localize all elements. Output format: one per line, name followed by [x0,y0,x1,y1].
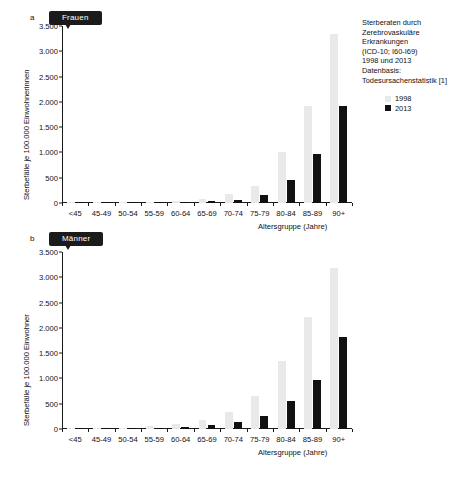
legend-item-1998: 1998 [385,94,411,104]
x-axis-tick-label: 70-74 [224,209,243,218]
x-axis-tick-mark [194,429,195,432]
panel-tag-label: Frauen [62,13,89,22]
panel-tag-maenner: Männer [49,232,103,246]
x-axis-tick-mark [352,429,353,432]
bar-2013-60-64 [181,427,189,429]
note-line-1: Sterberaten durch [362,18,447,28]
bar-2013-<45 [76,428,84,429]
y-axis-tick-mark [59,252,62,253]
y-axis-tick-mark [59,353,62,354]
x-axis-tick-label: <45 [69,435,82,444]
x-axis-tick-mark [62,429,63,432]
x-axis-tick-mark [167,429,168,432]
legend-item-2013: 2013 [385,104,411,114]
x-axis-tick-label: 45-49 [92,209,111,218]
y-axis-tick-label: 3.500 [39,22,58,31]
bar-1998-75-79 [251,186,259,203]
x-axis-tick-label: 80-84 [276,209,295,218]
legend-label-2013: 2013 [395,104,411,114]
panel-letter-a: a [30,13,34,22]
x-axis-tick-label: 55-59 [145,435,164,444]
bar-1998-65-69 [199,420,207,429]
x-axis-tick-mark [247,429,248,432]
plot-area-frauen: 05001.0001.5002.0002.5003.0003.500<4545-… [62,26,352,203]
y-axis-tick-label: 3.000 [39,47,58,56]
figure-note: Sterberaten durch Zerebrovaskuläre Erkra… [362,18,447,85]
bar-1998-55-59 [146,202,154,203]
x-axis-tick-mark [247,203,248,206]
x-axis-tick-label: 50-54 [118,209,137,218]
y-axis-tick-mark [59,76,62,77]
note-line-3: Erkrankungen [362,37,447,47]
y-axis-tick-mark [59,101,62,102]
bar-2013-55-59 [155,428,163,429]
bar-2013-80-84 [287,401,295,429]
x-axis-tick-mark [352,203,353,206]
bar-1998-50-54 [119,428,127,429]
note-line-4: (ICD-10; I60-I69) [362,47,447,57]
x-axis-tick-mark [141,429,142,432]
x-axis-tick-mark [273,429,274,432]
bar-1998-60-64 [172,424,180,429]
x-axis-tick-mark [326,203,327,206]
y-axis-tick-label: 500 [45,399,58,408]
bar-1998-45-49 [93,428,101,429]
bar-1998-<45 [67,202,75,203]
x-axis-tick-label: 55-59 [145,209,164,218]
y-axis-tick-label: 2.000 [39,323,58,332]
x-axis-tick-label: 90+ [332,435,345,444]
bar-2013-90+ [339,106,347,203]
y-axis-title-a: Sterbefälle je 100.000 Einwohnerinnen [22,70,31,200]
legend-swatch-1998-icon [385,96,391,102]
bar-1998-70-74 [225,412,233,429]
x-axis-tick-label: 90+ [332,209,345,218]
panel-tag-label: Männer [62,234,90,243]
y-axis-tick-label: 1.000 [39,148,58,157]
x-axis-tick-label: 45-49 [92,435,111,444]
x-axis-tick-label: 60-64 [171,435,190,444]
note-line-2: Zerebrovaskuläre [362,28,447,38]
y-axis-tick-mark [59,277,62,278]
x-axis-tick-label: 85-89 [303,435,322,444]
y-axis-tick-label: 2.500 [39,72,58,81]
x-axis-tick-label: 65-69 [197,209,216,218]
bar-1998-60-64 [172,201,180,203]
y-axis-tick-label: 2.500 [39,298,58,307]
x-axis-tick-mark [220,203,221,206]
y-axis-line [62,26,63,203]
y-axis-tick-mark [59,152,62,153]
x-axis-tick-label: 75-79 [250,209,269,218]
panel-letter-b: b [30,234,34,243]
bar-2013-65-69 [208,425,216,429]
bar-1998-65-69 [199,199,207,203]
bar-2013-<45 [76,202,84,203]
bar-2013-65-69 [208,201,216,203]
x-axis-tick-mark [167,203,168,206]
panel-frauen: a Frauen Sterbefälle je 100.000 Einwohne… [0,0,467,252]
x-axis-title-b: Altersgruppe (Jahre) [258,448,327,457]
y-axis-tick-label: 500 [45,173,58,182]
y-axis-line [62,252,63,429]
y-axis-tick-label: 0 [54,425,58,434]
bar-1998-85-89 [304,106,312,203]
note-line-5: 1998 und 2013 [362,56,447,66]
bar-2013-50-54 [128,202,136,203]
bar-2013-85-89 [313,154,321,203]
bar-2013-90+ [339,337,347,429]
bar-1998-90+ [330,34,338,203]
y-axis-tick-mark [59,51,62,52]
x-axis-tick-mark [273,203,274,206]
y-axis-tick-label: 0 [54,199,58,208]
bar-1998-45-49 [93,202,101,203]
legend-label-1998: 1998 [395,94,411,104]
y-axis-tick-label: 2.000 [39,97,58,106]
legend-swatch-2013-icon [385,105,391,111]
bar-1998-75-79 [251,396,259,429]
tag-pointer-icon [65,245,71,250]
x-axis-tick-label: 60-64 [171,209,190,218]
x-axis-tick-mark [115,429,116,432]
y-axis-tick-label: 1.000 [39,374,58,383]
y-axis-tick-mark [59,378,62,379]
bar-2013-45-49 [102,202,110,203]
x-axis-tick-label: 70-74 [224,435,243,444]
